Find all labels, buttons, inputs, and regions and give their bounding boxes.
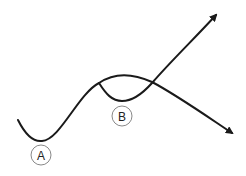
marker-b: B	[112, 106, 132, 126]
diagram-canvas: A B	[0, 0, 246, 176]
branch-curve	[99, 15, 216, 101]
marker-b-label: B	[118, 110, 126, 124]
marker-a-label: A	[37, 149, 45, 163]
marker-a: A	[31, 145, 51, 165]
